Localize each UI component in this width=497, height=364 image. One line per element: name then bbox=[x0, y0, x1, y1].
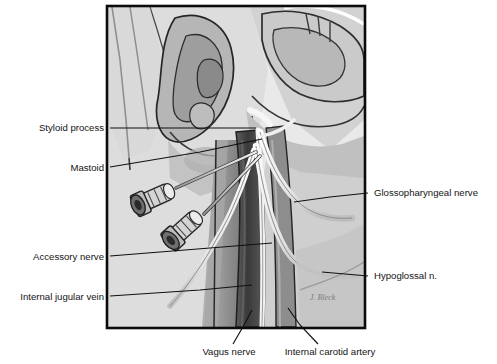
label-internal-carotid-artery: Internal carotid artery bbox=[285, 346, 376, 357]
label-mastoid: Mastoid bbox=[70, 162, 104, 173]
illustration-plate: J. Bleck bbox=[108, 6, 364, 327]
figure-canvas: J. Bleck Styloid process Mastoid Accesso… bbox=[0, 0, 497, 364]
label-accessory-nerve: Accessory nerve bbox=[33, 251, 104, 262]
artist-signature: J. Bleck bbox=[310, 293, 336, 302]
label-hypoglossal-nerve: Hypoglossal n. bbox=[374, 270, 437, 281]
label-styloid-process: Styloid process bbox=[39, 122, 104, 133]
label-vagus-nerve: Vagus nerve bbox=[202, 346, 255, 357]
label-glossopharyngeal-nerve: Glossopharyngeal nerve bbox=[374, 187, 478, 198]
anatomy-figure: J. Bleck Styloid process Mastoid Accesso… bbox=[0, 0, 497, 364]
ear-lobule bbox=[190, 103, 215, 129]
label-internal-jugular-vein: Internal jugular vein bbox=[20, 291, 104, 302]
